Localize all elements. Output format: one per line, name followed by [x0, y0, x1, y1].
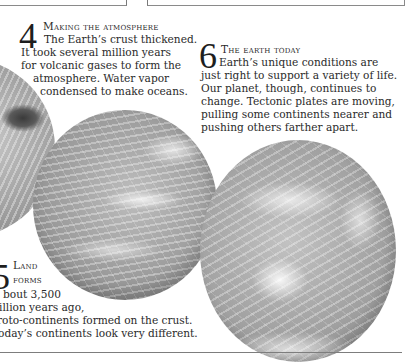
body-line: atmosphere. Water vapor: [33, 72, 169, 85]
body-line: It took several million years: [21, 46, 171, 59]
top-left-caption-box: [0, 0, 127, 6]
body-line: illion years ago,: [0, 301, 84, 314]
body-line: change. Tectonic plates are moving,: [201, 95, 395, 108]
body-line: bout 3,500: [3, 288, 61, 301]
body-line: pulling some continents nearer and: [201, 108, 392, 121]
body-line: roto-continents formed on the crust.: [0, 314, 192, 327]
globe-image-earth-today: [200, 140, 396, 362]
section-number: 6: [199, 41, 217, 71]
bottom-divider: [0, 352, 402, 353]
body-line: The Earth’s crust thickened.: [44, 33, 197, 46]
body-line: Our planet, though, continues to: [201, 82, 376, 95]
section-heading: Land: [13, 259, 38, 271]
body-line: Earth’s unique conditions are: [219, 56, 378, 69]
body-line: oday’s continents look very different.: [0, 327, 198, 340]
section-heading: Making the atmosphere: [43, 20, 159, 32]
section-heading: forms: [13, 273, 42, 285]
section-heading: The earth today: [221, 43, 300, 55]
top-right-caption-box: in the core.: [147, 0, 405, 6]
body-line: for volcanic gases to form the: [21, 59, 181, 72]
globe-image-land-forms: [33, 110, 217, 300]
caption-fragment: in the core.: [154, 0, 206, 1]
body-line: just right to support a variety of life.: [201, 69, 397, 82]
body-line: pushing others farther apart.: [201, 121, 358, 134]
body-line: condensed to make oceans.: [40, 85, 188, 98]
